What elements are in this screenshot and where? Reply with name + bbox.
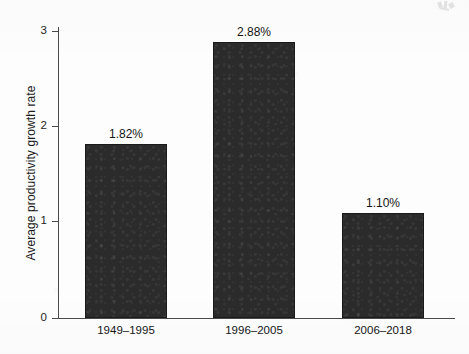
bar-2006-2018[interactable]: [342, 213, 424, 318]
x-axis-line: [58, 318, 455, 319]
bar-value-label-1996-2005: 2.88%: [237, 26, 271, 38]
bar-chart-figure: 3 2 1 0 Average productivity growth rate…: [0, 0, 469, 354]
bar-1996-2005[interactable]: [213, 42, 295, 318]
x-category-label-2006-2018: 2006–2018: [354, 325, 412, 337]
y-axis-title: Average productivity growth rate: [22, 27, 40, 319]
x-category-label-1996-2005: 1996–2005: [225, 325, 283, 337]
bar-1949-1995[interactable]: [85, 144, 167, 318]
x-category-label-1949-1995: 1949–1995: [97, 325, 155, 337]
scan-artifact-icon: [436, 1, 458, 14]
bar-value-label-1949-1995: 1.82%: [109, 128, 143, 140]
bar-value-label-2006-2018: 1.10%: [366, 197, 400, 209]
y-axis-line: [58, 27, 59, 319]
